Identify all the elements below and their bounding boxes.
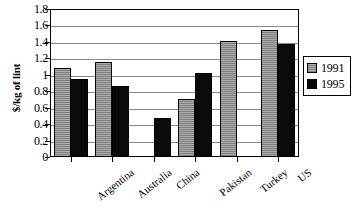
x-axis-tick-mark — [237, 157, 238, 162]
bar-group — [92, 9, 134, 157]
y-axis-tick-label: 0.2 — [2, 135, 48, 147]
bar-group — [216, 9, 258, 157]
y-axis-tick-label: 1.6 — [2, 19, 48, 31]
bar-group — [133, 9, 175, 157]
x-axis-label-argentina: Argentina — [94, 166, 136, 202]
y-axis-tick-label: 0.6 — [2, 102, 48, 114]
x-axis-tick-mark — [154, 157, 155, 162]
bar-pakistan-1991 — [178, 99, 195, 157]
y-axis-tick-label: 0 — [2, 151, 48, 163]
legend-swatch-1995-icon — [307, 79, 317, 89]
y-axis-tick-label: 0.4 — [2, 118, 48, 130]
y-axis-tick-label: 1.4 — [2, 36, 48, 48]
bars-layer — [50, 9, 299, 157]
bar-group — [50, 9, 92, 157]
legend-item-1991: 1991 — [307, 60, 348, 76]
x-axis-label-australia: Australia — [135, 166, 174, 200]
legend-label-1995: 1995 — [321, 78, 344, 90]
bar-chart: $/kg of lint 1.81.61.41.210.80.60.40.20 … — [0, 0, 354, 214]
y-axis-tick-label: 0.8 — [2, 85, 48, 97]
x-axis-label-turkey: Turkey — [258, 166, 290, 195]
y-axis-tick-label: 1.8 — [2, 3, 48, 15]
x-axis-tick-mark — [195, 157, 196, 162]
bar-group — [175, 9, 217, 157]
y-axis-tick-mark — [45, 157, 50, 158]
y-axis-tick-label: 1 — [2, 69, 48, 81]
x-axis-label-us: US — [295, 166, 313, 184]
bar-australia-1995 — [112, 86, 129, 157]
x-axis-tick-mark — [112, 157, 113, 162]
x-axis-tick-mark — [278, 157, 279, 162]
legend-label-1991: 1991 — [321, 62, 344, 74]
x-axis-tick-mark — [71, 157, 72, 162]
y-axis-tick-label: 1.2 — [2, 52, 48, 64]
bar-group — [258, 9, 300, 157]
bar-australia-1991 — [95, 62, 112, 157]
legend-swatch-1991-icon — [307, 63, 317, 73]
bar-pakistan-1995 — [195, 73, 212, 157]
legend-item-1995: 1995 — [307, 76, 348, 92]
bar-turkey-1991 — [220, 41, 237, 157]
bar-us-1991 — [261, 30, 278, 157]
bar-china-1995 — [154, 118, 171, 157]
bar-us-1995 — [278, 44, 295, 157]
x-axis-label-pakistan: Pakistan — [217, 166, 254, 198]
bar-argentina-1991 — [54, 68, 71, 157]
x-axis-label-china: China — [174, 166, 202, 192]
bar-argentina-1995 — [71, 79, 88, 157]
legend: 1991 1995 — [303, 56, 351, 96]
